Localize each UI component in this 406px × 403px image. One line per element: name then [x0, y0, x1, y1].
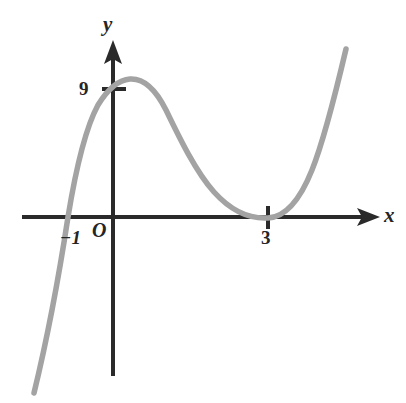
origin-label: O — [92, 220, 106, 240]
cubic-curve — [34, 49, 346, 393]
y-tick-label-9: 9 — [79, 79, 89, 98]
y-axis-label: y — [103, 14, 112, 35]
x-tick-label-three: 3 — [261, 228, 271, 247]
cubic-graph-plot — [0, 0, 406, 403]
graph-figure: y x O 9 −1 3 — [0, 0, 406, 403]
x-axis-label: x — [384, 205, 395, 226]
x-tick-label-neg-one: −1 — [60, 228, 81, 247]
